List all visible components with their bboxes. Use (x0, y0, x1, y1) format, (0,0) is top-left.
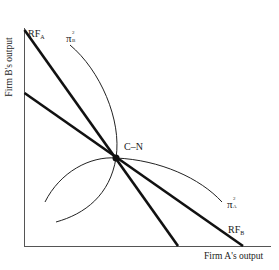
pi-a-sub: A (233, 204, 237, 209)
pi-a-label: π 2 A (227, 199, 233, 210)
reaction-function-b (25, 93, 244, 246)
y-axis-label: Firm B's output (4, 22, 14, 112)
reaction-function-a (25, 30, 179, 246)
pi-b-label: π 2 B (66, 33, 72, 44)
isoprofit-curve-b (56, 45, 117, 222)
rf-a-main: RF (28, 28, 40, 39)
cournot-nash-point (113, 155, 120, 162)
x-axis-label: Firm A's output (204, 251, 263, 261)
pi-b-main: π (66, 32, 72, 44)
rf-b-main: RF (228, 224, 240, 235)
pi-b-sub: B (72, 38, 75, 43)
pi-a-sup: 2 (233, 196, 236, 201)
rf-b-label: RFB (228, 225, 244, 236)
pi-a-main: π (227, 198, 233, 210)
pi-b-sup: 2 (72, 30, 75, 35)
equilibrium-label: C–N (124, 142, 143, 152)
rf-b-sub: B (240, 230, 244, 236)
isoprofit-curve-a (45, 158, 222, 202)
rf-a-sub: A (40, 34, 44, 40)
rf-a-label: RFA (28, 29, 45, 40)
